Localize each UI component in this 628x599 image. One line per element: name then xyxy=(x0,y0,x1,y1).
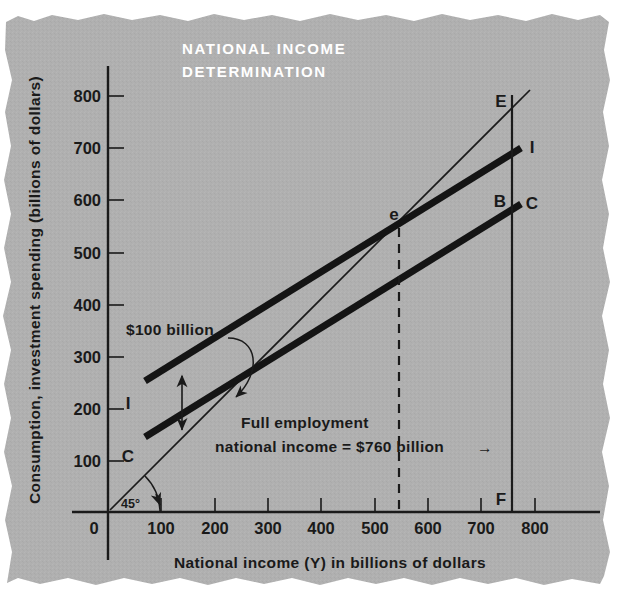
chart-svg: NATIONAL INCOME DETERMINATION 800 700 60… xyxy=(0,0,628,599)
x-tick-label-600: 600 xyxy=(414,519,442,537)
x-tick-label-400: 400 xyxy=(307,519,335,537)
point-label-E: E xyxy=(495,92,506,111)
point-label-F: F xyxy=(496,490,506,509)
x-axis-tick-labels: 0 100 200 300 400 500 600 700 800 xyxy=(89,519,548,537)
x-tick-label-500: 500 xyxy=(361,519,389,537)
y-tick-label-600: 600 xyxy=(73,191,101,209)
full-employment-arrow: → xyxy=(477,439,493,456)
full-employment-line1: Full employment xyxy=(241,414,369,431)
curve-label-I-right: I xyxy=(530,138,535,157)
point-label-e: e xyxy=(389,205,398,224)
x-tick-label-700: 700 xyxy=(467,519,495,537)
y-tick-label-500: 500 xyxy=(73,244,101,262)
y-tick-label-300: 300 xyxy=(73,348,101,366)
full-employment-line2: national income = $760 billion xyxy=(215,438,444,455)
y-axis-title: Consumption, investment spending (billio… xyxy=(26,76,43,504)
gap-label: $100 billion xyxy=(126,321,214,338)
x-tick-label-0: 0 xyxy=(89,519,98,537)
y-tick-label-700: 700 xyxy=(73,139,101,157)
x-axis-title: National income (Y) in billions of dolla… xyxy=(174,554,486,571)
x-tick-label-200: 200 xyxy=(201,519,229,537)
chart-title-line1: NATIONAL INCOME xyxy=(182,40,346,57)
x-tick-label-800: 800 xyxy=(521,519,549,537)
x-tick-label-100: 100 xyxy=(147,519,175,537)
point-label-B: B xyxy=(494,192,506,211)
curve-label-I-left: I xyxy=(126,394,131,413)
curve-label-C-right: C xyxy=(526,194,538,213)
angle-label: 45° xyxy=(121,497,140,511)
y-tick-label-200: 200 xyxy=(73,400,101,418)
y-tick-label-400: 400 xyxy=(73,296,101,314)
x-tick-label-300: 300 xyxy=(254,519,282,537)
figure-container: NATIONAL INCOME DETERMINATION 800 700 60… xyxy=(0,0,628,599)
curve-label-C-left: C xyxy=(122,447,134,466)
chart-title-line2: DETERMINATION xyxy=(182,63,327,80)
y-tick-label-800: 800 xyxy=(73,87,101,105)
y-tick-label-100: 100 xyxy=(73,452,101,470)
